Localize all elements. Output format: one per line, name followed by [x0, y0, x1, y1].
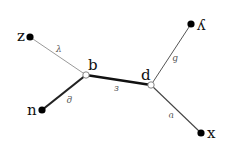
- edge-d-x: [151, 85, 201, 133]
- node-label-b: b: [88, 56, 98, 74]
- edge-b-n: [42, 75, 86, 110]
- edge-label-d-x: ʋ: [168, 111, 174, 121]
- node-y[interactable]: [187, 20, 194, 27]
- node-z[interactable]: [26, 33, 33, 40]
- node-label-y: ʎ: [196, 16, 206, 34]
- edge-label-z-b: λ: [55, 44, 62, 54]
- node-label-x: x: [207, 124, 216, 142]
- node-label-d: d: [141, 66, 151, 84]
- node-n[interactable]: [38, 106, 45, 113]
- edge-label-b-d: з: [114, 83, 119, 93]
- edge-z-b: [30, 37, 86, 75]
- node-label-n: n: [27, 101, 37, 119]
- edge-d-y: [151, 24, 191, 85]
- edge-label-d-y: ɓ: [172, 54, 178, 64]
- node-x[interactable]: [197, 129, 204, 136]
- edge-label-b-n: ϱ: [66, 96, 72, 106]
- node-label-z: z: [17, 27, 25, 45]
- tree-diagram: λ ϱ з ɓ ʋ z b n d ʎ x: [0, 0, 227, 155]
